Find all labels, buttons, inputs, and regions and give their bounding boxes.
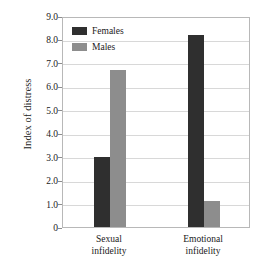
- y-tick-label: 8.0: [32, 35, 58, 45]
- y-axis-tick-labels: 01.02.03.04.05.06.07.08.09.0: [28, 17, 58, 228]
- bar-females-emotional-infidelity: [188, 35, 204, 227]
- x-category-label-line2: infidelity: [64, 245, 154, 257]
- y-tick-label: 3.0: [32, 153, 58, 163]
- gridline: [63, 88, 249, 89]
- y-tick-label: 5.0: [32, 106, 58, 116]
- x-category-label-line1: Emotional: [158, 233, 248, 245]
- bar-males-emotional-infidelity: [204, 201, 220, 227]
- legend-item-males: Males: [72, 40, 142, 54]
- x-axis-category-labels: SexualinfidelityEmotionalinfidelity: [62, 233, 250, 267]
- bar-males-sexual-infidelity: [110, 70, 126, 227]
- y-tick-label: 4.0: [32, 129, 58, 139]
- legend-label: Females: [92, 26, 124, 36]
- legend-swatch-icon: [72, 43, 87, 51]
- y-tick-label: 6.0: [32, 82, 58, 92]
- x-category-label-line1: Sexual: [64, 233, 154, 245]
- legend-item-females: Females: [72, 24, 142, 38]
- y-tick-label: 2.0: [32, 176, 58, 186]
- gridline: [63, 158, 249, 159]
- legend-swatch-icon: [72, 27, 87, 35]
- bar-females-sexual-infidelity: [94, 157, 110, 227]
- gridline: [63, 111, 249, 112]
- legend-label: Males: [92, 42, 115, 52]
- legend: FemalesMales: [72, 24, 142, 56]
- y-tick-label: 9.0: [32, 12, 58, 22]
- x-category-label-line2: infidelity: [158, 245, 248, 257]
- gridline: [63, 64, 249, 65]
- gridline: [63, 135, 249, 136]
- bar-chart: Index of distress 01.02.03.04.05.06.07.0…: [0, 0, 273, 272]
- x-category-label: Sexualinfidelity: [64, 233, 154, 257]
- gridline: [63, 182, 249, 183]
- gridline: [63, 205, 249, 206]
- y-tick-label: 7.0: [32, 59, 58, 69]
- y-tick-label: 0: [32, 223, 58, 233]
- x-category-label: Emotionalinfidelity: [158, 233, 248, 257]
- y-tick-label: 1.0: [32, 200, 58, 210]
